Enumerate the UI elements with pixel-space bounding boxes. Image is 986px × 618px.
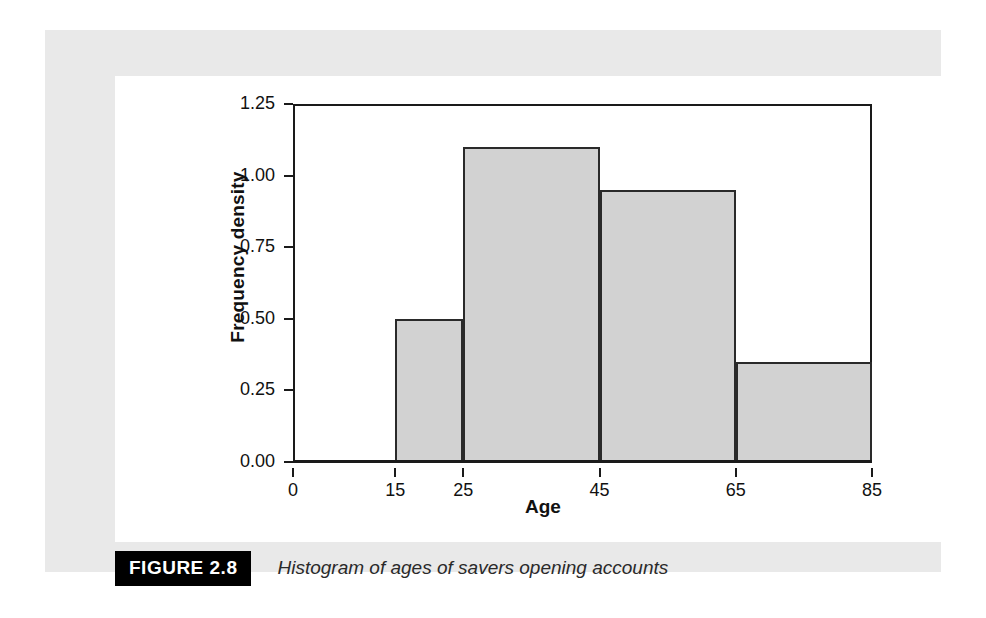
x-axis-title: Age [115,496,971,518]
y-tick-mark [284,175,293,177]
y-tick-mark [284,318,293,320]
figure-caption-row: FIGURE 2.8 Histogram of ages of savers o… [115,549,971,587]
x-tick-mark [292,468,294,477]
x-tick-mark [599,468,601,477]
y-tick-label: 0.50 [219,308,275,329]
x-tick-mark [394,468,396,477]
y-tick-label: 1.25 [219,93,275,114]
y-tick-label: 0.75 [219,236,275,257]
y-tick-label: 0.00 [219,451,275,472]
figure-page: Frequency density 0.000.250.500.751.001.… [0,0,986,618]
histogram-plot: Frequency density 0.000.250.500.751.001.… [115,76,971,542]
y-tick-mark [284,461,293,463]
figure-panel: Frequency density 0.000.250.500.751.001.… [45,30,941,572]
figure-caption-text: Histogram of ages of savers opening acco… [277,557,668,579]
y-tick-mark [284,389,293,391]
histogram-bar [395,319,463,462]
y-tick-label: 0.25 [219,379,275,400]
histogram-bar [600,190,736,462]
x-tick-mark [871,468,873,477]
y-tick-mark [284,103,293,105]
x-tick-mark [462,468,464,477]
y-tick-mark [284,246,293,248]
x-tick-mark [735,468,737,477]
y-tick-label: 1.00 [219,165,275,186]
histogram-bar [463,147,599,462]
chart-card: Frequency density 0.000.250.500.751.001.… [115,76,971,542]
axis-baseline [293,460,872,463]
figure-number-badge: FIGURE 2.8 [115,551,251,586]
histogram-bar [736,362,872,462]
